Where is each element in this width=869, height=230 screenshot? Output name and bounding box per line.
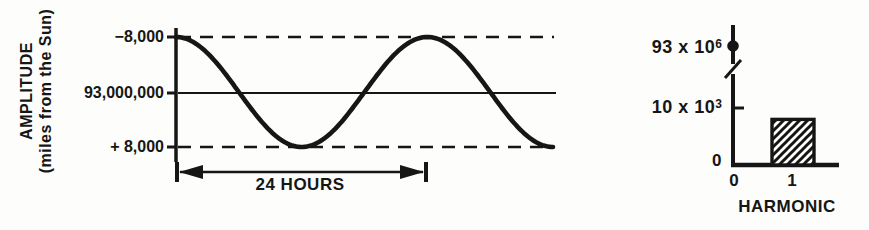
right-xtick-1: 1	[780, 172, 804, 189]
right-ytick-10e3-exponent: 3	[715, 97, 722, 111]
right-ytick-93e6-exponent: 6	[715, 37, 722, 51]
left-ytick-plus-8000: + 8,000	[60, 139, 164, 155]
dc-component-dot	[727, 40, 739, 52]
left-ytick-93000000: 93,000,000	[60, 85, 164, 101]
right-x-axis-title: HARMONIC	[726, 198, 848, 215]
right-xtick-0: 0	[722, 172, 746, 189]
left-y-axis-title-line1: AMPLITUDE	[17, 0, 36, 186]
left-y-axis-title: AMPLITUDE (miles from the Sun)	[17, 0, 55, 186]
left-ytick-minus-8000: −8,000	[60, 29, 164, 45]
harmonic-1-bar	[772, 119, 814, 165]
figure-canvas: AMPLITUDE (miles from the Sun) −8,000 93…	[0, 0, 869, 230]
right-ytick-93e6-base: 93 x 10	[652, 37, 716, 57]
left-y-axis-title-line2: (miles from the Sun)	[36, 0, 55, 186]
period-label: 24 HOURS	[245, 176, 355, 193]
right-ytick-zero: 0	[618, 152, 722, 169]
right-ytick-10e3: 10 x 103	[618, 98, 722, 116]
right-ytick-93e6: 93 x 106	[618, 38, 722, 56]
right-ytick-10e3-base: 10 x 10	[652, 97, 716, 117]
